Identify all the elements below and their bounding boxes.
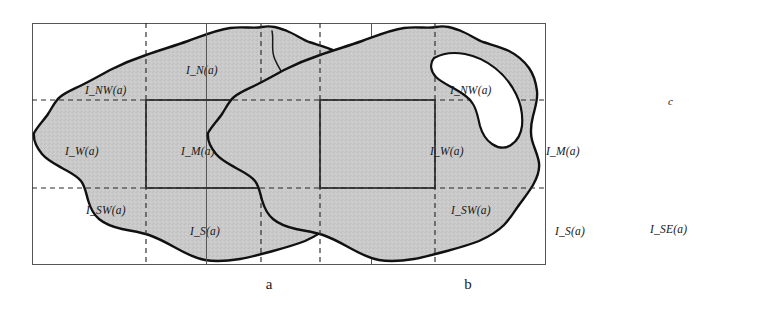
label-panel-b-I-S: I_S(a) bbox=[555, 225, 585, 237]
label-panel-b-I-SW: I_SW(a) bbox=[451, 204, 491, 216]
panel-b-canvas bbox=[0, 0, 764, 312]
panel-b-region-shape bbox=[208, 26, 539, 261]
label-panel-b-I-NW: I_NW(a) bbox=[450, 84, 492, 96]
label-panel-b-I-M: I_M(a) bbox=[546, 145, 580, 157]
label-panel-b-I-SE: I_SE(a) bbox=[650, 223, 687, 235]
panel-b: I_NW(a) I_W(a) I_M(a) I_SW(a) I_S(a) I_S… bbox=[382, 0, 764, 312]
figure-two-panel-region-decomposition: I_NW(a) I_N(a) I_W(a) I_M(a) I_SW(a) I_S… bbox=[0, 0, 764, 312]
label-panel-b-I-W: I_W(a) bbox=[430, 145, 464, 157]
label-panel-b-feature-c: c bbox=[668, 95, 673, 107]
caption-panel-b: b bbox=[448, 276, 488, 293]
